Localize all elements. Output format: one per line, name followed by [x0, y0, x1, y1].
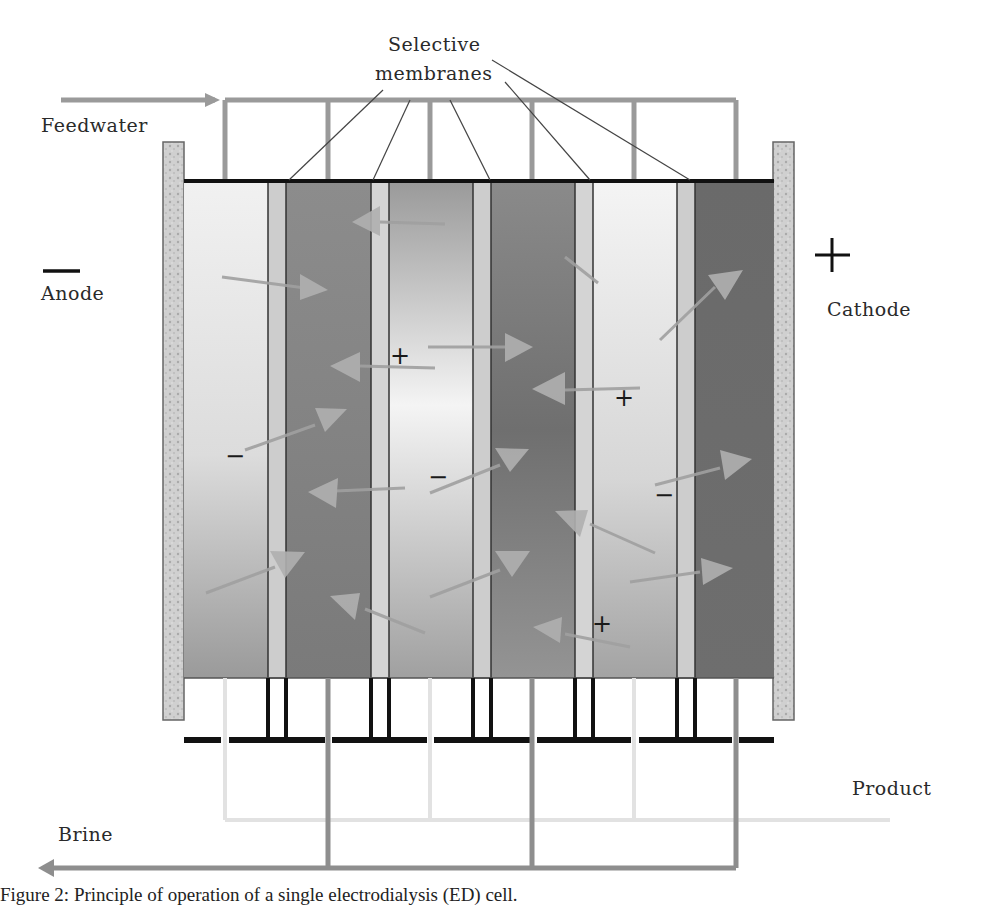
ion-negative-icon: −: [428, 465, 448, 489]
cathode-electrode: [773, 142, 794, 720]
brine-arrow-icon: [38, 859, 54, 877]
ion-negative-icon: −: [654, 483, 674, 507]
ion-negative-icon: −: [225, 444, 245, 468]
selective-membranes-label-line1: Selective: [388, 33, 480, 55]
ion-positive-icon: +: [614, 386, 634, 410]
anode-label: Anode: [41, 282, 104, 304]
ion-positive-icon: +: [592, 612, 612, 636]
product-label: Product: [852, 777, 931, 799]
figure-caption: Figure 2: Principle of operation of a si…: [0, 884, 518, 906]
ion-positive-icon: +: [390, 344, 410, 368]
feedwater-arrow-icon: [205, 93, 220, 107]
cathode-plus-icon: [815, 238, 850, 272]
feedwater-label: Feedwater: [41, 114, 148, 136]
selective-membranes-label-line2: membranes: [375, 62, 493, 84]
anode-electrode: [163, 142, 184, 720]
outlet-collectors: [184, 678, 774, 740]
brine-label: Brine: [58, 823, 113, 845]
cathode-label: Cathode: [827, 298, 911, 320]
